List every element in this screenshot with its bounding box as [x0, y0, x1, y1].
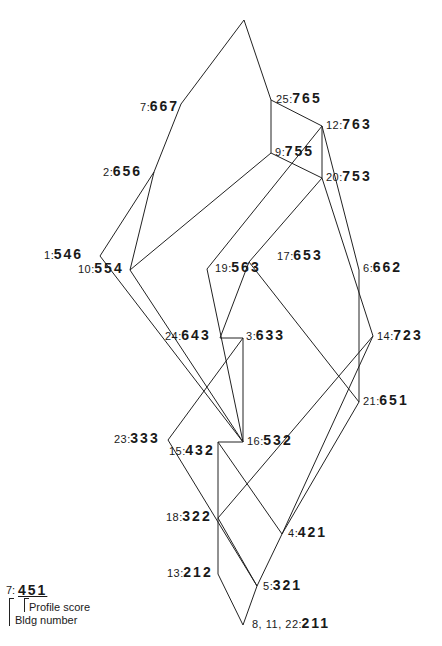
profile-score: 656 — [113, 163, 142, 179]
bldg-number: 17 — [277, 250, 290, 262]
edge-n21-n4 — [282, 402, 359, 534]
node-label-n2: 2:656 — [103, 163, 142, 179]
bldg-number: 20 — [326, 171, 339, 183]
node-label-n19: 19:563 — [215, 259, 261, 275]
bldg-number: 25 — [276, 93, 289, 105]
bldg-number: 4 — [288, 527, 295, 539]
legend-profile-score-label: Profile score — [29, 601, 90, 613]
edge-n7-n2 — [154, 104, 181, 172]
profile-score: 211 — [302, 615, 331, 631]
node-label-n3: 3:633 — [246, 327, 285, 343]
profile-score: 333 — [130, 430, 159, 446]
edge-n2-n1 — [100, 172, 154, 256]
profile-score: 723 — [393, 327, 422, 343]
profile-score: 563 — [231, 259, 260, 275]
bldg-number: 19 — [215, 262, 228, 274]
node-label-n4: 4:421 — [288, 524, 327, 540]
node-label-n7: 7:667 — [140, 98, 179, 114]
node-label-n12: 12:763 — [326, 116, 372, 132]
profile-score: 633 — [256, 327, 285, 343]
node-label-n18: 18:322 — [166, 508, 212, 524]
node-label-n5: 5:321 — [263, 577, 302, 593]
edge-n19-n16 — [207, 269, 243, 442]
profile-score: 421 — [298, 524, 327, 540]
legend-example-score: 451 — [18, 582, 47, 598]
bldg-number: 24 — [165, 330, 178, 342]
edge-n2-n10 — [130, 172, 154, 270]
legend-example-bldg: 7: — [6, 584, 15, 596]
bldg-number: 2 — [103, 166, 110, 178]
edge-n20-n14 — [322, 178, 373, 336]
edge-apex-n7 — [181, 20, 244, 104]
edge-n14-n18 — [218, 336, 373, 518]
edge-n18-n5 — [218, 518, 257, 586]
profile-score: 651 — [379, 392, 408, 408]
profile-score: 667 — [150, 98, 179, 114]
bldg-number: 23 — [114, 433, 127, 445]
lattice-diagram — [0, 0, 442, 646]
profile-score: 765 — [292, 90, 321, 106]
bldg-number: 5 — [263, 580, 270, 592]
bldg-number: 16 — [247, 435, 260, 447]
profile-score: 532 — [263, 432, 292, 448]
node-label-n10: 10:554 — [78, 260, 124, 276]
edge-n9-n10 — [130, 153, 271, 270]
edge-n13-n8_11_22 — [218, 574, 243, 625]
legend-bldg-number-label: Bldg number — [15, 614, 77, 626]
bldg-number: 8, 11, 22 — [252, 618, 299, 630]
node-label-n9: 9:755 — [275, 143, 314, 159]
bldg-number: 6 — [363, 262, 370, 274]
profile-score: 321 — [273, 577, 302, 593]
edge-n12-n6 — [322, 126, 359, 270]
bldg-number: 14 — [377, 330, 390, 342]
edge-n14-n4 — [282, 336, 373, 534]
node-label-n25: 25:765 — [276, 90, 322, 106]
node-label-n23: 23:333 — [114, 430, 160, 446]
profile-score: 554 — [94, 260, 123, 276]
legend-bldg-pointer — [9, 598, 14, 626]
node-label-n20: 20:753 — [326, 168, 372, 184]
profile-score: 322 — [182, 508, 211, 524]
node-label-n16: 16:532 — [247, 432, 293, 448]
edge-n15-n4 — [218, 442, 282, 534]
bldg-number: 9 — [275, 146, 282, 158]
bldg-number: 18 — [166, 511, 179, 523]
profile-score: 763 — [342, 116, 371, 132]
bldg-number: 12 — [326, 119, 339, 131]
node-label-n8_11_22: 8, 11, 22:211 — [252, 615, 330, 631]
bldg-number: 15 — [169, 445, 182, 457]
node-label-n17: 17:653 — [277, 247, 323, 263]
edge-n1-n16 — [100, 256, 243, 442]
profile-score: 212 — [183, 564, 212, 580]
bldg-number: 10 — [78, 263, 91, 275]
bldg-number: 1 — [44, 249, 51, 261]
bldg-number: 3 — [246, 330, 253, 342]
node-label-n24: 24:643 — [165, 327, 211, 343]
profile-score: 653 — [293, 247, 322, 263]
bldg-number: 7 — [140, 101, 147, 113]
profile-score: 753 — [342, 168, 371, 184]
edge-n10-n16 — [130, 270, 243, 442]
bldg-number: 13 — [167, 567, 180, 579]
profile-score: 643 — [181, 327, 210, 343]
node-label-n6: 6:662 — [363, 259, 402, 275]
edge-apex-n25 — [244, 20, 271, 100]
profile-score: 432 — [185, 442, 214, 458]
bldg-number: 21 — [363, 395, 376, 407]
legend: 7: 451 Profile score Bldg number — [4, 584, 124, 644]
node-label-n15: 15:432 — [169, 442, 215, 458]
profile-score: 755 — [285, 143, 314, 159]
profile-score: 662 — [373, 259, 402, 275]
node-label-n14: 14:723 — [377, 327, 423, 343]
node-label-n13: 13:212 — [167, 564, 213, 580]
node-label-n21: 21:651 — [363, 392, 409, 408]
